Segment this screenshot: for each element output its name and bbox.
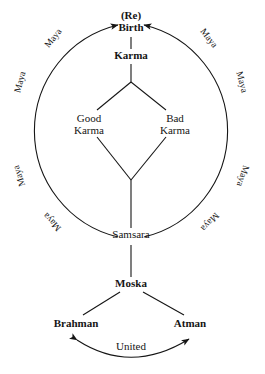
karma-label: Karma (114, 50, 148, 62)
united-label: United (116, 341, 146, 353)
node-good-karma: Good Karma (74, 113, 104, 137)
good-karma-label-line2: Karma (74, 125, 104, 137)
node-samsara: Samsara (112, 229, 149, 241)
node-atman: Atman (174, 318, 206, 330)
node-rebirth: (Re) Birth (118, 10, 143, 34)
node-united: United (116, 341, 146, 353)
good-karma-to-vertex (97, 137, 131, 180)
moska-brahman-branch (83, 292, 120, 315)
node-brahman: Brahman (54, 318, 99, 330)
bad-karma-label-line2: Karma (160, 125, 190, 137)
samsara-cycle-diagram: (Re) Birth Karma Good Karma Bad Karma Sa… (0, 0, 265, 374)
karma-bad-branch (131, 82, 166, 110)
node-karma: Karma (114, 50, 148, 62)
atman-label: Atman (174, 318, 206, 330)
karma-good-branch (97, 82, 131, 110)
bad-karma-to-vertex (131, 137, 166, 180)
samsara-label: Samsara (112, 229, 149, 241)
rebirth-label: Birth (118, 22, 143, 34)
moska-label: Moska (115, 278, 147, 290)
node-bad-karma: Bad Karma (160, 113, 190, 137)
moska-atman-branch (143, 292, 184, 315)
brahman-label: Brahman (54, 318, 99, 330)
node-moska: Moska (115, 278, 147, 290)
